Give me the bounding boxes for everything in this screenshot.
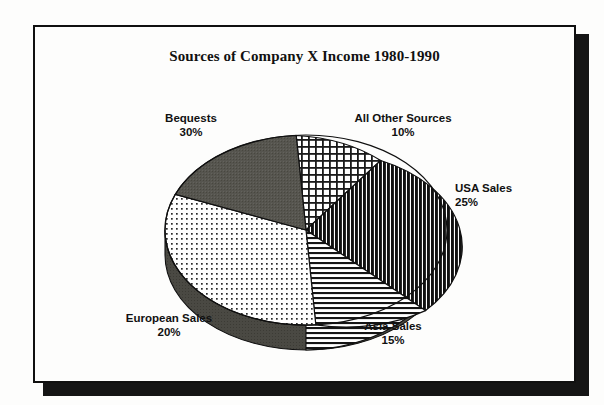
slice-label-all-other-sources-name: All Other Sources (354, 112, 451, 124)
slice-label-bequests-name: Bequests (165, 112, 217, 124)
slice-label-usa-sales-name: USA Sales (455, 182, 512, 194)
slice-label-usa-sales-pct: 25% (455, 196, 573, 210)
slice-label-european-sales-pct: 20% (89, 326, 249, 340)
slice-label-bequests: Bequests 30% (131, 112, 251, 139)
slice-label-asia-sales-pct: 15% (323, 334, 463, 348)
slice-label-bequests-pct: 30% (131, 126, 251, 140)
slice-label-asia-sales-name: Asia Sales (364, 320, 422, 332)
slice-label-all-other-sources-pct: 10% (323, 126, 483, 140)
pie-chart-area: All Other Sources 10% USA Sales 25% Asia… (35, 27, 578, 385)
slice-label-asia-sales: Asia Sales 15% (323, 320, 463, 347)
slice-label-usa-sales: USA Sales 25% (455, 182, 573, 209)
pie-top-face: All Other Sources 10% USA Sales 25% Asia… (165, 136, 462, 328)
slice-label-european-sales: European Sales 20% (89, 312, 249, 339)
chart-page: Sources of Company X Income 1980-1990 (0, 0, 604, 405)
slice-label-european-sales-name: European Sales (126, 312, 212, 324)
chart-frame: Sources of Company X Income 1980-1990 (33, 25, 576, 383)
slice-label-all-other-sources: All Other Sources 10% (323, 112, 483, 139)
